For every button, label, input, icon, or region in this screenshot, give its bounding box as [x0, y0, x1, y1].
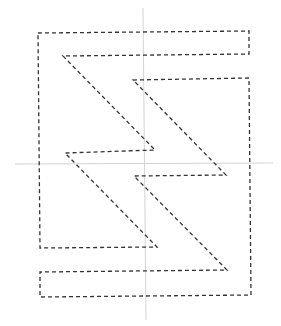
dashed-outline-figure — [0, 0, 281, 326]
diagram-canvas — [0, 0, 281, 326]
